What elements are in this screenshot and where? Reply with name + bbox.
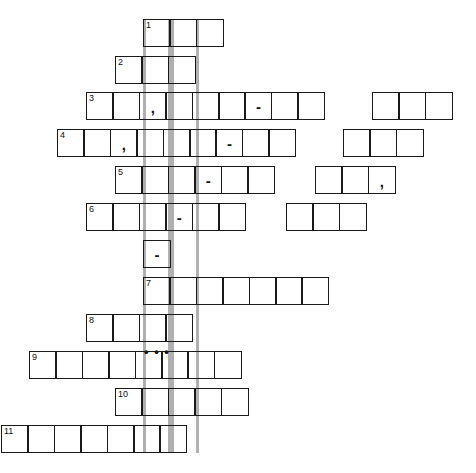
crossword-puzzle: 123,-4,-5-,6--78• • •91011 [0, 0, 476, 473]
crossword-cell[interactable] [196, 277, 224, 305]
crossword-cell[interactable] [80, 425, 108, 453]
clue-number: 8 [89, 315, 94, 326]
hyphen-mark: - [245, 98, 271, 116]
clue-number: 5 [118, 167, 123, 178]
crossword-cell[interactable] [161, 351, 189, 379]
crossword-cell[interactable]: 5 [115, 166, 143, 194]
crossword-entry-11: 11 [1, 425, 187, 453]
crossword-cell[interactable] [141, 388, 169, 416]
crossword-cell[interactable] [315, 166, 343, 194]
crossword-cell[interactable] [218, 92, 246, 120]
crossword-cell[interactable] [163, 129, 191, 157]
crossword-cell[interactable]: , [110, 129, 138, 157]
crossword-cell[interactable] [242, 129, 270, 157]
crossword-cell[interactable] [187, 351, 215, 379]
crossword-cell[interactable] [221, 166, 249, 194]
crossword-cell[interactable]: - [143, 240, 171, 268]
crossword-cell[interactable] [271, 92, 299, 120]
crossword-cell[interactable]: 7 [143, 277, 171, 305]
crossword-entry-4: 4,- [57, 129, 296, 157]
crossword-cell[interactable]: 11 [1, 425, 29, 453]
crossword-cell[interactable] [169, 19, 197, 47]
crossword-cell[interactable] [343, 129, 371, 157]
crossword-cell[interactable] [139, 203, 167, 231]
crossword-cell[interactable] [83, 129, 111, 157]
hyphen-mark: - [216, 135, 242, 153]
clue-number: 3 [89, 93, 94, 104]
crossword-cell[interactable] [82, 351, 110, 379]
hyphen-mark: - [144, 246, 170, 264]
crossword-cell[interactable] [425, 92, 453, 120]
crossword-cell[interactable] [196, 19, 224, 47]
comma-mark: , [140, 99, 166, 117]
crossword-cell[interactable] [107, 425, 135, 453]
crossword-cell[interactable] [165, 92, 193, 120]
crossword-cell[interactable] [268, 129, 296, 157]
crossword-cell[interactable]: 8 [86, 314, 114, 342]
crossword-entry-segment: , [315, 166, 396, 194]
crossword-cell[interactable] [398, 92, 426, 120]
crossword-cell[interactable] [135, 351, 163, 379]
crossword-entry-5: 5- [115, 166, 275, 194]
crossword-cell[interactable]: - [165, 203, 193, 231]
crossword-cell[interactable] [192, 203, 220, 231]
crossword-cell[interactable] [194, 388, 222, 416]
crossword-cell[interactable] [341, 166, 369, 194]
clue-number: 1 [146, 20, 151, 31]
crossword-cell[interactable] [133, 425, 161, 453]
crossword-cell[interactable]: 9 [29, 351, 57, 379]
crossword-cell[interactable]: - [215, 129, 243, 157]
crossword-cell[interactable]: 3 [86, 92, 114, 120]
crossword-entry-segment [286, 203, 367, 231]
crossword-cell[interactable] [54, 425, 82, 453]
crossword-cell[interactable] [55, 351, 83, 379]
clue-number: 9 [32, 352, 37, 363]
crossword-cell[interactable] [112, 92, 140, 120]
crossword-cell[interactable] [192, 92, 220, 120]
crossword-cell[interactable]: , [139, 92, 167, 120]
crossword-cell[interactable] [141, 166, 169, 194]
crossword-cell[interactable] [136, 129, 164, 157]
crossword-entry-2: 2 [115, 56, 196, 84]
crossword-cell[interactable] [112, 314, 140, 342]
crossword-cell[interactable] [396, 129, 424, 157]
crossword-cell[interactable] [108, 351, 136, 379]
crossword-cell[interactable] [112, 203, 140, 231]
crossword-cell[interactable] [168, 56, 196, 84]
crossword-cell[interactable] [275, 277, 303, 305]
crossword-cell[interactable] [221, 388, 249, 416]
crossword-entry-10: 10 [115, 388, 249, 416]
crossword-cell[interactable] [312, 203, 340, 231]
crossword-cell[interactable]: 1 [143, 19, 171, 47]
crossword-cell[interactable] [339, 203, 367, 231]
comma-mark: , [111, 136, 137, 154]
crossword-cell[interactable]: , [368, 166, 396, 194]
clue-number: 7 [146, 278, 151, 289]
crossword-cell[interactable] [218, 203, 246, 231]
crossword-cell[interactable] [141, 56, 169, 84]
crossword-cell[interactable]: - [194, 166, 222, 194]
crossword-cell[interactable] [369, 129, 397, 157]
crossword-cell[interactable] [372, 92, 400, 120]
crossword-cell[interactable] [168, 166, 196, 194]
crossword-cell[interactable] [189, 129, 217, 157]
crossword-cell[interactable] [301, 277, 329, 305]
crossword-cell[interactable]: 4 [57, 129, 85, 157]
crossword-cell[interactable] [27, 425, 55, 453]
crossword-cell[interactable] [222, 277, 250, 305]
crossword-cell[interactable]: 2 [115, 56, 143, 84]
crossword-cell[interactable]: 6 [86, 203, 114, 231]
crossword-cell[interactable]: 10 [115, 388, 143, 416]
crossword-entry-segment: - [143, 240, 171, 268]
crossword-cell[interactable] [286, 203, 314, 231]
crossword-cell[interactable] [297, 92, 325, 120]
crossword-entry-3: 3,- [86, 92, 325, 120]
crossword-cell[interactable] [214, 351, 242, 379]
clue-number: 4 [60, 130, 65, 141]
crossword-cell[interactable] [249, 277, 277, 305]
crossword-cell[interactable] [247, 166, 275, 194]
crossword-cell[interactable] [168, 388, 196, 416]
crossword-cell[interactable] [159, 425, 187, 453]
crossword-cell[interactable]: - [244, 92, 272, 120]
crossword-cell[interactable] [169, 277, 197, 305]
